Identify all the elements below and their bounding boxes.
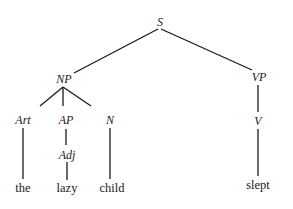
word-lazy: lazy [57, 181, 78, 196]
word-slept: slept [246, 178, 270, 193]
node-vp: VP [252, 70, 267, 85]
syntax-tree-diagram: S NP VP Art AP N Adj V the lazy child sl… [0, 0, 293, 209]
node-v: V [254, 114, 261, 129]
node-ap: AP [59, 113, 74, 128]
node-adj: Adj [59, 148, 76, 163]
edge-s-vp [161, 29, 252, 70]
edge-np-art [40, 87, 63, 106]
edge-np-n [63, 87, 91, 106]
edge-s-np [74, 29, 158, 73]
node-n: N [106, 113, 114, 128]
word-child: child [100, 181, 125, 196]
node-np: NP [56, 72, 71, 87]
node-art: Art [15, 113, 30, 128]
node-s: S [157, 15, 163, 30]
word-the: the [15, 181, 30, 196]
